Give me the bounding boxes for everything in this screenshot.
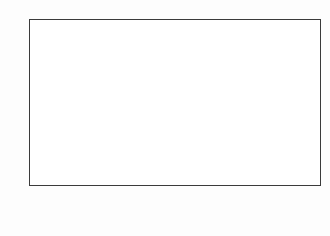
x-axis (29, 186, 321, 236)
y-axis (0, 0, 29, 236)
bar-series-group (30, 20, 320, 185)
plot-area (29, 19, 321, 186)
chart-container (0, 0, 330, 236)
